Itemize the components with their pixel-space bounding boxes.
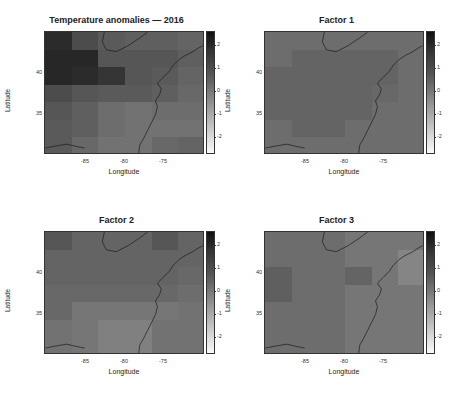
x-axis-label: Longitude [44, 368, 204, 375]
chart-panel-1: Temperature anomalies — 2016210-1-24035L… [0, 0, 233, 199]
colorbar-tick-label: 2 [437, 241, 440, 247]
colorbar-tick-label: 1 [437, 64, 440, 70]
y-axis-label: Latitude [4, 289, 11, 312]
x-axis-label: Longitude [44, 168, 204, 175]
x-tick-label: -75 [375, 158, 391, 164]
colorbar-tick-label: -2 [437, 133, 442, 139]
colorbar-tick-label: 2 [437, 41, 440, 47]
chart-title: Factor 2 [0, 215, 233, 225]
colorbar-tick-label: 1 [437, 264, 440, 270]
heatmap-plot-area [264, 231, 424, 354]
colorbar-tick-label: -1 [437, 110, 442, 116]
chart-title: Factor 3 [220, 215, 453, 225]
chart-panel-4: Factor 3210-1-24035Latitude-85-80-75Long… [220, 200, 453, 398]
heatmap-plot-area [264, 31, 424, 154]
x-tick-label: -75 [155, 158, 171, 164]
colorbar [426, 31, 435, 154]
x-axis-label: Longitude [264, 168, 424, 175]
x-tick-label: -75 [155, 358, 171, 364]
x-tick-label: -75 [375, 358, 391, 364]
x-tick-label: -80 [116, 358, 132, 364]
x-tick-label: -85 [77, 358, 93, 364]
chart-title: Temperature anomalies — 2016 [0, 15, 233, 25]
coastline-overlay [45, 232, 203, 353]
y-tick-label: 35 [30, 110, 42, 116]
chart-panel-2: Factor 1210-1-24035Latitude-85-80-75Long… [220, 0, 453, 199]
x-axis-label: Longitude [264, 368, 424, 375]
colorbar [206, 231, 215, 354]
x-tick-label: -85 [297, 158, 313, 164]
y-tick-label: 35 [250, 310, 262, 316]
y-axis-label: Latitude [224, 289, 231, 312]
colorbar-tick-label: -2 [437, 333, 442, 339]
colorbar-tick-label: -1 [437, 310, 442, 316]
y-axis-label: Latitude [224, 89, 231, 112]
colorbar [426, 231, 435, 354]
heatmap-plot-area [44, 231, 204, 354]
chart-panel-3: Factor 2210-1-24035Latitude-85-80-75Long… [0, 200, 233, 398]
coastline-overlay [45, 32, 203, 153]
x-tick-label: -80 [116, 158, 132, 164]
x-tick-label: -80 [336, 158, 352, 164]
y-tick-label: 35 [250, 110, 262, 116]
y-tick-label: 40 [250, 69, 262, 75]
y-tick-label: 40 [30, 269, 42, 275]
colorbar-tick-label: 0 [437, 87, 440, 93]
y-tick-label: 40 [250, 269, 262, 275]
y-axis-label: Latitude [4, 89, 11, 112]
heatmap-plot-area [44, 31, 204, 154]
y-tick-label: 40 [30, 69, 42, 75]
x-tick-label: -85 [77, 158, 93, 164]
coastline-overlay [265, 232, 423, 353]
x-tick-label: -85 [297, 358, 313, 364]
y-tick-label: 35 [30, 310, 42, 316]
colorbar-tick-label: 0 [437, 287, 440, 293]
x-tick-label: -80 [336, 358, 352, 364]
coastline-overlay [265, 32, 423, 153]
chart-title: Factor 1 [220, 15, 453, 25]
colorbar [206, 31, 215, 154]
